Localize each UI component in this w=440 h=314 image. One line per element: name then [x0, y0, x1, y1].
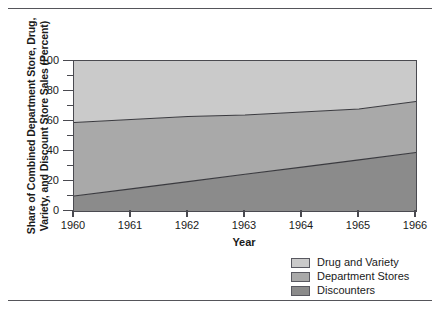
x-tick-label-1966: 1966 — [403, 219, 427, 231]
x-tick-label-1965: 1965 — [346, 219, 370, 231]
x-tick-1965 — [357, 210, 358, 217]
legend-swatch-drug-and-variety — [291, 258, 310, 268]
chart-legend: Drug and Variety Department Stores Disco… — [291, 256, 409, 298]
x-tick-label-1964: 1964 — [289, 219, 313, 231]
stacked-area-svg — [74, 61, 416, 211]
bottom-divider-rule — [8, 300, 432, 301]
legend-swatch-department-stores — [291, 272, 310, 282]
y-tick-label-0: 0 — [26, 204, 59, 216]
legend-label-discounters: Discounters — [317, 285, 375, 296]
legend-item-discounters[interactable]: Discounters — [291, 284, 409, 297]
x-tick-1963 — [243, 210, 244, 217]
x-tick-label-1960: 1960 — [61, 219, 85, 231]
y-axis-title-line2: Variety, and Discount Store Sales (Perce… — [38, 0, 51, 256]
legend-item-department-stores[interactable]: Department Stores — [291, 270, 409, 283]
y-tick-major-20 — [63, 180, 73, 181]
x-tick-1966 — [414, 210, 415, 217]
x-tick-1962 — [186, 210, 187, 217]
legend-label-drug-and-variety: Drug and Variety — [317, 257, 399, 268]
y-tick-major-60 — [63, 120, 73, 121]
x-tick-label-1961: 1961 — [118, 219, 142, 231]
y-tick-label-20: 20 — [26, 174, 59, 186]
x-axis-title: Year — [73, 236, 415, 248]
x-tick-label-1963: 1963 — [232, 219, 256, 231]
top-divider-rule — [8, 8, 432, 9]
y-tick-label-60: 60 — [26, 114, 59, 126]
figure-container: Share of Combined Department Store, Drug… — [0, 0, 440, 314]
x-tick-1960 — [72, 210, 73, 217]
plot-area — [73, 60, 417, 212]
y-axis-title: Share of Combined Department Store, Drug… — [25, 0, 51, 256]
legend-label-department-stores: Department Stores — [317, 271, 409, 282]
x-tick-1961 — [129, 210, 130, 217]
y-tick-label-80: 80 — [26, 84, 59, 96]
y-tick-major-80 — [63, 90, 73, 91]
legend-item-drug-and-variety[interactable]: Drug and Variety — [291, 256, 409, 269]
legend-swatch-discounters — [291, 286, 310, 296]
y-tick-label-40: 40 — [26, 144, 59, 156]
y-tick-label-100: 100 — [26, 54, 59, 66]
y-tick-major-100 — [63, 60, 73, 61]
x-tick-1964 — [300, 210, 301, 217]
y-tick-major-40 — [63, 150, 73, 151]
x-tick-label-1962: 1962 — [175, 219, 199, 231]
y-axis-title-line1: Share of Combined Department Store, Drug… — [25, 0, 38, 256]
